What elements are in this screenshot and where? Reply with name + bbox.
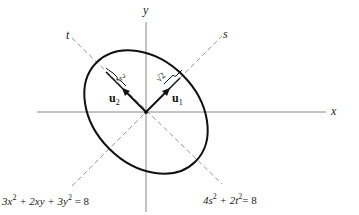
- s-axis-label: s: [223, 28, 228, 40]
- s-semi-axis: [168, 78, 180, 90]
- u1-label-subscript: 1: [179, 98, 183, 107]
- u1-label-base: u: [172, 91, 179, 105]
- eq-st-term-a: 4s: [203, 194, 213, 206]
- u2-label-subscript: 2: [116, 98, 120, 107]
- u1-label: u1: [172, 92, 183, 107]
- u2-label: u2: [109, 92, 120, 107]
- t-axis-label: t: [66, 29, 69, 41]
- y-axis-label: y: [143, 4, 148, 16]
- u2-label-base: u: [109, 91, 116, 105]
- origin-point: [144, 110, 148, 114]
- eq-xy-term-a: 3x: [2, 195, 12, 207]
- diagram-canvas: [0, 0, 359, 215]
- eq-xy-rhs: = 8: [72, 195, 89, 207]
- eq-xy-term-b: + 2xy + 3y: [16, 195, 68, 207]
- equation-xy: 3x2 + 2xy + 3y2 = 8: [2, 194, 89, 207]
- eq-st-term-b: + 2t: [217, 194, 238, 206]
- x-axis-label: x: [331, 105, 336, 117]
- equation-st: 4s2 + 2t2= 8: [203, 193, 257, 206]
- eq-st-rhs: = 8: [242, 194, 256, 206]
